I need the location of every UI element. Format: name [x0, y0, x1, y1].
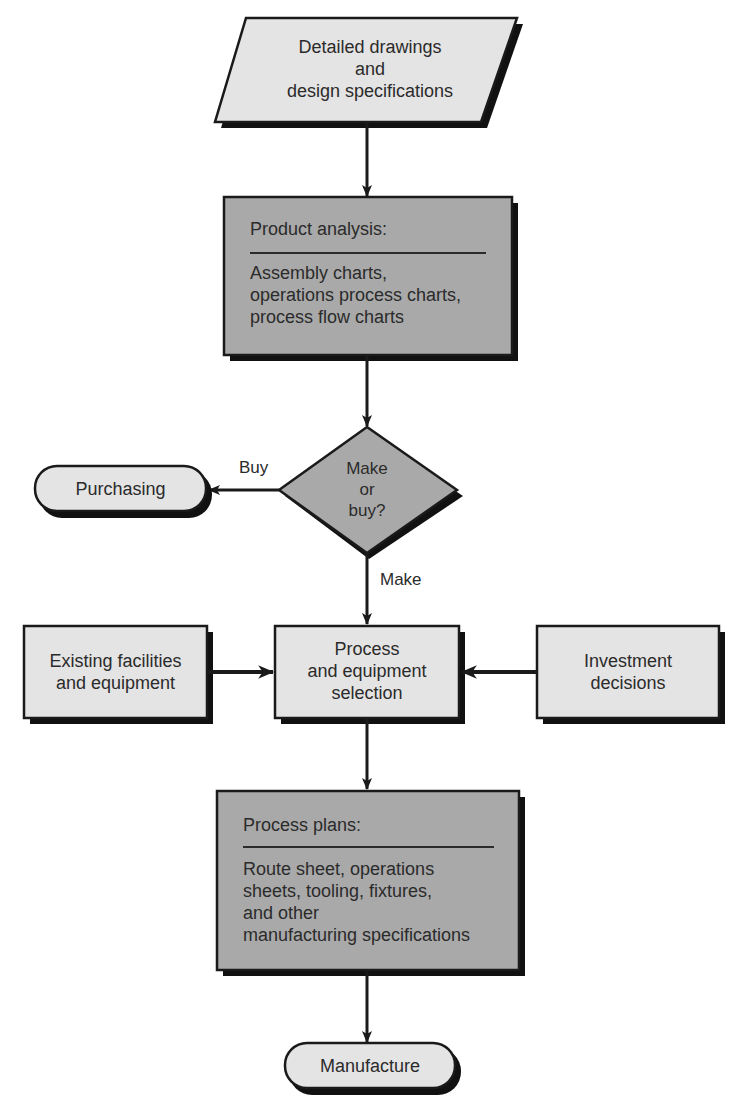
manufacture-label: Manufacture: [285, 1055, 455, 1077]
product-analysis-divider: [250, 252, 486, 254]
input-line-1: Detailed drawings: [230, 36, 510, 58]
process-plans-divider: [243, 846, 494, 848]
edge-label-make: Make: [380, 570, 422, 590]
process-selection-line-3: selection: [275, 682, 459, 704]
purchasing-label: Purchasing: [35, 478, 206, 500]
input-label: Detailed drawings and design specificati…: [230, 36, 510, 102]
edge-label-buy: Buy: [239, 458, 268, 478]
investment-line-2: decisions: [537, 672, 719, 694]
investment-line-1: Investment: [537, 650, 719, 672]
process-plans-line-3: and other: [243, 902, 513, 924]
product-analysis-line-1: Assembly charts,: [250, 262, 510, 284]
investment-label: Investment decisions: [537, 650, 719, 694]
existing-facilities-line-1: Existing facilities: [24, 650, 207, 672]
existing-facilities-label: Existing facilities and equipment: [24, 650, 207, 694]
decision-line-2: or: [317, 479, 417, 500]
process-plans-body: Route sheet, operations sheets, tooling,…: [243, 858, 513, 946]
product-analysis-header: Product analysis:: [250, 218, 387, 240]
process-plans-header: Process plans:: [243, 814, 361, 836]
input-line-3: design specifications: [230, 80, 510, 102]
process-selection-label: Process and equipment selection: [275, 638, 459, 704]
decision-line-3: buy?: [317, 500, 417, 521]
decision-line-1: Make: [317, 458, 417, 479]
product-analysis-line-2: operations process charts,: [250, 284, 510, 306]
input-line-2: and: [230, 58, 510, 80]
process-plans-line-4: manufacturing specifications: [243, 924, 513, 946]
process-selection-line-2: and equipment: [275, 660, 459, 682]
product-analysis-body: Assembly charts, operations process char…: [250, 262, 510, 328]
decision-label: Make or buy?: [317, 458, 417, 521]
existing-facilities-line-2: and equipment: [24, 672, 207, 694]
process-selection-line-1: Process: [275, 638, 459, 660]
product-analysis-line-3: process flow charts: [250, 306, 510, 328]
process-plans-line-1: Route sheet, operations: [243, 858, 513, 880]
flowchart-canvas: [0, 0, 742, 1120]
process-plans-line-2: sheets, tooling, fixtures,: [243, 880, 513, 902]
